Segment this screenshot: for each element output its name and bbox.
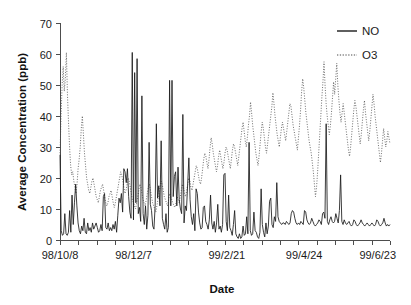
x-tick-label: 99/2/21 (208, 249, 245, 261)
series-line-no (60, 52, 390, 238)
legend-label-no: NO (362, 25, 379, 37)
x-tick-label: 98/12/7 (115, 249, 152, 261)
y-axis-title: Average Concentration (ppb) (16, 53, 28, 211)
y-tick-label: 0 (46, 235, 52, 247)
x-axis-title: Date (210, 283, 235, 295)
x-axis-ticks: 98/10/898/12/799/2/2199/4/2499/6/23 (42, 241, 396, 261)
y-tick-label: 60 (40, 49, 52, 61)
chart-legend: NO O3 (337, 25, 379, 61)
legend-label-o3: O3 (362, 49, 377, 61)
x-tick-label: 98/10/8 (42, 249, 79, 261)
x-tick-label: 99/6/23 (359, 249, 396, 261)
y-tick-label: 70 (40, 18, 52, 30)
y-tick-label: 30 (40, 142, 52, 154)
y-tick-label: 50 (40, 80, 52, 92)
y-axis-ticks: 010203040506070 (40, 18, 60, 247)
line-chart-canvas: Average Concentration (ppb) Date 0102030… (0, 0, 411, 305)
plot-area (60, 52, 390, 238)
y-tick-label: 20 (40, 173, 52, 185)
chart-figure: Average Concentration (ppb) Date 0102030… (0, 0, 411, 305)
y-tick-label: 10 (40, 204, 52, 216)
y-tick-label: 40 (40, 111, 52, 123)
x-tick-label: 99/4/24 (286, 249, 323, 261)
